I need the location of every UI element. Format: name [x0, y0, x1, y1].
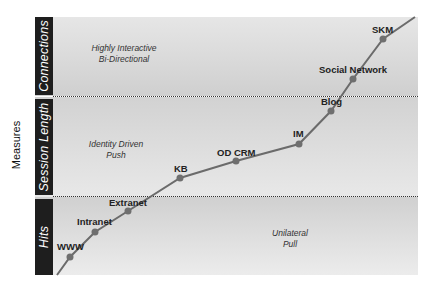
marker-www [67, 254, 74, 261]
point-label-intranet: Intranet [77, 216, 112, 227]
marker-intranet [92, 229, 99, 236]
marker-social-network [350, 76, 357, 83]
point-label-skm: SKM [372, 24, 393, 35]
marker-od-crm [233, 158, 240, 165]
marker-blog [328, 108, 335, 115]
point-label-im: IM [293, 128, 304, 139]
point-label-www: WWW [57, 241, 84, 252]
point-label-social-network: Social Network [319, 64, 387, 75]
point-label-extranet: Extranet [109, 197, 147, 208]
point-label-od-crm: OD CRM [217, 147, 256, 158]
evolution-diagram: Connections Session Length Hits Measures… [0, 0, 442, 291]
marker-extranet [125, 208, 132, 215]
marker-skm [380, 36, 387, 43]
point-label-kb: KB [174, 163, 188, 174]
marker-kb [177, 175, 184, 182]
point-label-blog: Blog [321, 96, 342, 107]
marker-im [296, 141, 303, 148]
curve-line [57, 17, 415, 275]
